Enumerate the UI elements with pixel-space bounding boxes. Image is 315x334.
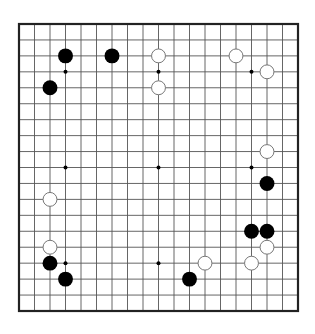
- white-stone: [229, 49, 243, 63]
- white-stone: [43, 192, 57, 206]
- black-stone: [43, 80, 58, 95]
- go-board[interactable]: [0, 0, 315, 334]
- white-stone: [245, 256, 259, 270]
- star-point: [64, 70, 68, 74]
- white-stone: [43, 240, 57, 254]
- black-stone: [58, 48, 73, 63]
- black-stone: [43, 256, 58, 271]
- white-stone: [152, 49, 166, 63]
- black-stone: [260, 224, 275, 239]
- white-stone: [260, 145, 274, 159]
- black-stone: [244, 224, 259, 239]
- star-point: [64, 261, 68, 265]
- black-stone: [260, 176, 275, 191]
- star-point: [157, 166, 161, 170]
- star-point: [250, 166, 254, 170]
- white-stone: [152, 81, 166, 95]
- white-stone: [260, 240, 274, 254]
- white-stone: [198, 256, 212, 270]
- black-stone: [105, 48, 120, 63]
- black-stone: [182, 272, 197, 287]
- star-point: [157, 261, 161, 265]
- white-stone: [260, 65, 274, 79]
- black-stone: [58, 272, 73, 287]
- star-point: [64, 166, 68, 170]
- star-point: [157, 70, 161, 74]
- star-point: [250, 70, 254, 74]
